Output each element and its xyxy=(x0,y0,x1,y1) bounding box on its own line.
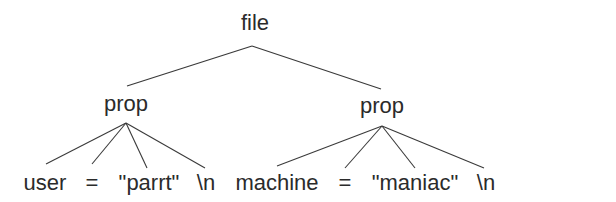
leaf-equals-1: = xyxy=(86,172,99,194)
leaf-user: user xyxy=(24,172,67,194)
node-prop-left: prop xyxy=(104,93,148,115)
edge-prop-eq2 xyxy=(345,126,382,168)
node-prop-right: prop xyxy=(360,95,404,117)
edge-prop-parrt xyxy=(126,123,147,168)
edge-prop-nl2 xyxy=(382,126,484,168)
edge-prop-machine xyxy=(277,126,382,166)
edge-file-prop-left xyxy=(127,46,252,86)
leaf-newline-1: \n xyxy=(197,172,215,194)
edge-prop-nl1 xyxy=(126,123,205,168)
edge-file-prop-right xyxy=(252,46,381,89)
node-file: file xyxy=(241,12,269,34)
leaf-machine: machine xyxy=(235,172,318,194)
leaf-newline-2: \n xyxy=(477,172,495,194)
leaf-parrt: "parrt" xyxy=(119,172,180,194)
leaf-maniac: "maniac" xyxy=(372,172,459,194)
edge-prop-eq1 xyxy=(92,123,126,164)
leaf-equals-2: = xyxy=(339,172,352,194)
edge-prop-user xyxy=(46,123,126,164)
